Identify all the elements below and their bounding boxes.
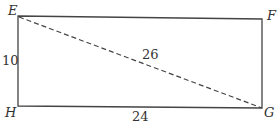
side-length-hg: 24	[132, 110, 149, 123]
vertex-label-e: E	[8, 4, 18, 17]
vertex-label-g: G	[264, 106, 274, 119]
diagonal-eg	[19, 17, 262, 108]
vertex-label-f: F	[267, 9, 276, 22]
diagonal-length-eg: 26	[142, 48, 159, 61]
vertex-label-h: H	[5, 106, 16, 119]
side-length-eh: 10	[2, 54, 19, 67]
